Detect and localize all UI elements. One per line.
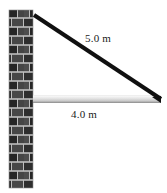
diagram-canvas bbox=[0, 0, 167, 193]
brick-wall bbox=[9, 10, 33, 188]
beam-length-label: 4.0 m bbox=[71, 108, 97, 120]
diagonal-cable bbox=[34, 15, 161, 99]
cable-length-label: 5.0 m bbox=[85, 32, 111, 44]
cable-supported-beam-diagram: 5.0 m 4.0 m bbox=[0, 0, 167, 193]
horizontal-beam bbox=[33, 96, 161, 103]
